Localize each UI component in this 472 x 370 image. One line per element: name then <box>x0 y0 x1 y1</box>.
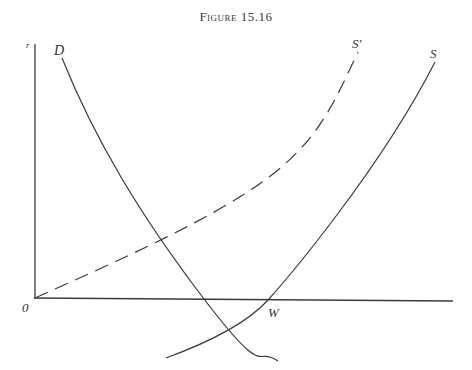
demand-curve <box>62 58 278 361</box>
origin-label: 0 <box>22 300 29 315</box>
shifted-supply-curve <box>35 52 358 298</box>
supply-label: S <box>430 46 437 61</box>
diagram-canvas: r 0 D S' S W <box>0 0 472 370</box>
x-axis <box>34 298 453 301</box>
w-point-label: W <box>268 305 280 320</box>
supply-curve <box>166 62 435 358</box>
demand-label: D <box>53 43 64 58</box>
shifted-supply-label: S' <box>352 36 362 51</box>
y-axis-label: r <box>26 40 30 50</box>
